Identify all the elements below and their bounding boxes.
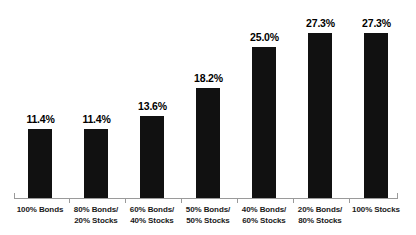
category-label-line1: 60% Bonds/ [121, 204, 183, 215]
bar-group: 11.4% [81, 0, 112, 198]
bar-value-label: 18.2% [187, 72, 230, 84]
category-label-line1: 100% Stocks [345, 204, 407, 215]
axis-tick [349, 198, 350, 203]
x-axis-line [14, 198, 398, 199]
bar-value-label: 11.4% [19, 113, 62, 125]
bar [364, 33, 388, 198]
category-label: 100% Bonds [9, 204, 71, 215]
bar-value-label: 11.4% [75, 113, 118, 125]
bar-value-label: 13.6% [131, 100, 174, 112]
bar-group: 13.6% [137, 0, 168, 198]
category-label-line1: 80% Bonds/ [65, 204, 127, 215]
category-label: 60% Bonds/ 40% Stocks [121, 204, 183, 226]
category-label: 20% Bonds/ 80% Stocks [289, 204, 351, 226]
bar-value-label: 27.3% [355, 17, 398, 29]
category-label-line1: 40% Bonds/ [233, 204, 295, 215]
axis-tick [181, 198, 182, 203]
axis-tick [125, 198, 126, 203]
axis-end-cap-left [14, 193, 15, 199]
axis-end-cap-right [397, 193, 398, 199]
category-label-line1: 20% Bonds/ [289, 204, 351, 215]
bar [140, 116, 164, 198]
bar [252, 47, 276, 198]
category-axis-labels: 100% Bonds 80% Bonds/ 20% Stocks 60% Bon… [0, 204, 416, 235]
bar [28, 129, 52, 198]
category-label: 100% Stocks [345, 204, 407, 215]
category-label-line2: 60% Stocks [233, 215, 295, 226]
bar-group: 27.3% [305, 0, 336, 198]
category-label-line1: 50% Bonds/ [177, 204, 239, 215]
category-label-line2: 40% Stocks [121, 215, 183, 226]
bar-group: 18.2% [193, 0, 224, 198]
category-label-line2: 80% Stocks [289, 215, 351, 226]
bar [84, 129, 108, 198]
category-label: 40% Bonds/ 60% Stocks [233, 204, 295, 226]
axis-tick [237, 198, 238, 203]
bar-value-label: 27.3% [299, 17, 342, 29]
category-label: 80% Bonds/ 20% Stocks [65, 204, 127, 226]
axis-tick [69, 198, 70, 203]
category-label-line2: 20% Stocks [65, 215, 127, 226]
bar-group: 11.4% [25, 0, 56, 198]
bar-group: 25.0% [249, 0, 280, 198]
bar [308, 33, 332, 198]
category-label-line1: 100% Bonds [9, 204, 71, 215]
bar-value-label: 25.0% [243, 31, 286, 43]
category-label-line2: 50% Stocks [177, 215, 239, 226]
bar-chart: 11.4% 11.4% 13.6% 18.2% 25.0% 27.3% 27.3… [0, 0, 416, 235]
bar-group: 27.3% [361, 0, 392, 198]
category-label: 50% Bonds/ 50% Stocks [177, 204, 239, 226]
axis-tick [293, 198, 294, 203]
bar [196, 88, 220, 198]
plot-area: 11.4% 11.4% 13.6% 18.2% 25.0% 27.3% 27.3… [0, 0, 416, 198]
